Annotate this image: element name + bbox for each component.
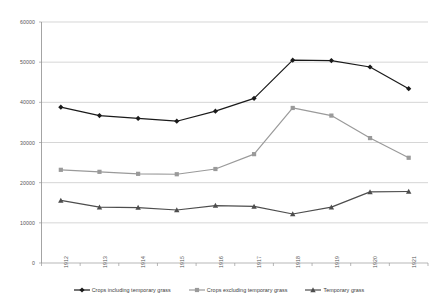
data-point-marker bbox=[291, 106, 295, 110]
legend-marker-icon bbox=[74, 286, 90, 294]
data-point-marker bbox=[97, 113, 102, 118]
data-point-marker bbox=[59, 168, 63, 172]
data-point-marker bbox=[407, 156, 411, 160]
legend-label: Crops excluding temporary grass bbox=[207, 287, 288, 293]
line-chart: 0100002000030000400005000060000 19121913… bbox=[0, 0, 438, 305]
legend-marker-icon bbox=[189, 286, 205, 294]
data-point-marker bbox=[136, 116, 141, 121]
legend-label: Temporary grass bbox=[323, 287, 364, 293]
data-point-marker bbox=[252, 152, 256, 156]
series-line bbox=[61, 192, 409, 215]
data-point-marker bbox=[79, 287, 84, 292]
series-line bbox=[61, 60, 409, 121]
data-point-marker bbox=[367, 64, 372, 69]
series-line bbox=[61, 108, 409, 174]
legend-label: Crops including temporary grass bbox=[92, 287, 171, 293]
data-point-marker bbox=[136, 172, 140, 176]
chart-legend: Crops including temporary grassCrops exc… bbox=[0, 286, 438, 294]
data-point-marker bbox=[368, 136, 372, 140]
data-point-marker bbox=[58, 105, 63, 110]
legend-item[interactable]: Crops including temporary grass bbox=[74, 286, 171, 294]
plot-area bbox=[0, 0, 438, 305]
legend-marker-icon bbox=[305, 286, 321, 294]
data-point-marker bbox=[329, 113, 333, 117]
data-point-marker bbox=[174, 119, 179, 124]
data-point-marker bbox=[97, 170, 101, 174]
legend-item[interactable]: Crops excluding temporary grass bbox=[189, 286, 288, 294]
data-point-marker bbox=[213, 109, 218, 114]
gridlines bbox=[42, 22, 429, 263]
data-series-layer bbox=[58, 58, 411, 217]
data-point-marker bbox=[175, 172, 179, 176]
legend-item[interactable]: Temporary grass bbox=[305, 286, 364, 294]
series-2 bbox=[58, 189, 411, 216]
x-axis-ticks bbox=[39, 22, 428, 266]
series-0 bbox=[58, 58, 411, 124]
data-point-marker bbox=[195, 288, 199, 292]
data-point-marker bbox=[406, 86, 411, 91]
data-point-marker bbox=[213, 167, 217, 171]
